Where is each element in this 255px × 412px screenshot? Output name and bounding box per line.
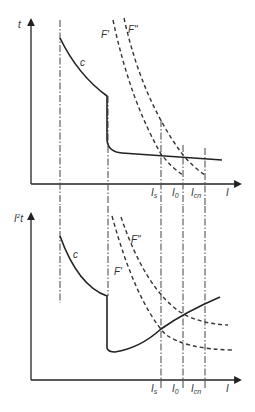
top-marker-is: Is [151,187,158,199]
bottom-curve-c [60,236,220,352]
top-fuse-f-double-prime [124,18,205,175]
time-current-diagram: t I c F' F" Is I0 Icn I2t I [0,0,255,412]
bottom-marker-icn: Icn [191,383,201,395]
bottom-x-axis-label: I [226,383,229,394]
top-chart: t I c F' F" Is I0 Icn [18,18,238,205]
bottom-fuse-f-prime-label: F' [114,266,123,277]
top-curve-c-label: c [80,57,85,68]
top-fuse-f-prime-label: F' [101,29,110,40]
top-marker-i0: I0 [172,187,179,199]
bottom-fuse-f-prime [112,216,232,350]
bottom-marker-is: Is [151,383,158,395]
top-current-markers: Is I0 Icn [151,187,201,199]
bottom-y-axis-label: I2t [14,213,24,224]
bottom-fuse-f-double-prime-label: F" [131,234,141,245]
top-y-axis-label: t [18,19,22,30]
bottom-marker-i0: I0 [172,383,179,395]
bottom-chart: I2t I c F' F" Is I0 Icn [14,206,238,395]
bottom-current-markers: Is I0 Icn [151,383,201,395]
top-fuse-f-double-prime-label: F" [128,24,138,35]
top-fuse-f-prime [113,20,183,175]
bottom-curve-c-label: c [73,249,78,260]
top-x-axis-label: I [226,187,229,198]
top-marker-icn: Icn [191,187,201,199]
